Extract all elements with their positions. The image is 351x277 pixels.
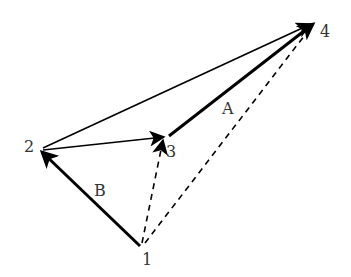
point-label-4: 4 xyxy=(320,22,330,41)
vector-diagram: 1 2 3 4 A B xyxy=(0,0,351,277)
point-label-2: 2 xyxy=(24,137,34,156)
point-label-1: 1 xyxy=(142,250,152,269)
point-label-3: 3 xyxy=(166,142,176,161)
vector-b xyxy=(42,152,140,246)
vector-label-a: A xyxy=(221,99,234,118)
vector-label-b: B xyxy=(94,181,106,200)
edge-1-3-dashed xyxy=(142,140,163,243)
